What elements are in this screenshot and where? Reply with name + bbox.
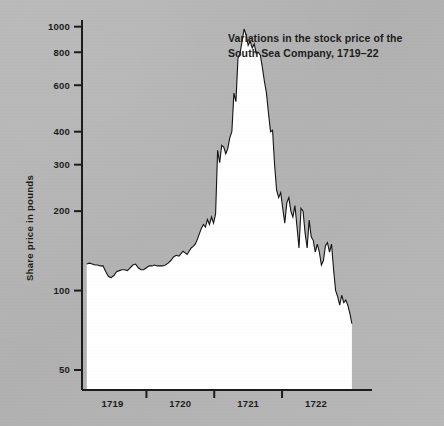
y-tick-label: 600 xyxy=(54,80,70,91)
x-tick-label: 1722 xyxy=(305,398,327,409)
x-tick-label: 1721 xyxy=(237,398,259,409)
y-tick-label: 50 xyxy=(59,364,70,375)
y-tick-label: 800 xyxy=(54,47,70,58)
series-area-fill xyxy=(87,29,352,390)
chart-title-line-1: Variations in the stock price of the xyxy=(228,32,403,44)
x-tick-label: 1719 xyxy=(102,398,124,409)
y-axis-title: Share price in pounds xyxy=(24,175,35,281)
x-tick-label: 1720 xyxy=(169,398,191,409)
y-axis: 501002003004006008001000 Share price in … xyxy=(24,20,82,390)
chart-figure: 501002003004006008001000 Share price in … xyxy=(0,0,444,426)
y-tick-label: 400 xyxy=(54,126,70,137)
y-tick-label: 100 xyxy=(54,285,70,296)
x-axis: 1719172017211722 xyxy=(82,390,372,409)
y-tick-label: 200 xyxy=(54,205,70,216)
chart-title-line-2: South Sea Company, 1719–22 xyxy=(228,47,379,59)
y-tick-label: 300 xyxy=(54,159,70,170)
x-axis-ticks: 1719172017211722 xyxy=(102,390,327,409)
y-axis-ticks: 501002003004006008001000 xyxy=(48,21,82,375)
stock-price-area-chart: 501002003004006008001000 Share price in … xyxy=(0,0,444,426)
y-tick-label: 1000 xyxy=(48,21,70,32)
plot-area xyxy=(87,29,352,390)
